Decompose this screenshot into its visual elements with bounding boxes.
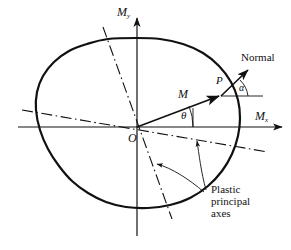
point-p-label: P (216, 75, 223, 86)
normal-label: Normal (241, 52, 275, 63)
y-axis-label: My (117, 6, 130, 20)
plastic-principal-axis-shallow (22, 110, 268, 152)
moment-vector-label: M (178, 88, 188, 100)
plastic-axes-leader-2 (157, 164, 204, 192)
x-axis-label: Mx (255, 110, 268, 124)
theta-angle-arc (189, 106, 193, 127)
plastic-axes-leader-1 (197, 141, 206, 190)
alpha-angle-label: α (239, 83, 244, 93)
figure-canvas: My Mx O M P θ α Normal Plastic principal… (0, 0, 291, 250)
plastic-label-line-3: axes (211, 207, 250, 219)
plastic-label-line-1: Plastic (211, 183, 250, 195)
theta-angle-label: θ (181, 110, 186, 121)
origin-label: O (128, 132, 137, 144)
plastic-label-line-2: principal (211, 195, 250, 207)
plastic-principal-axes-label: Plastic principal axes (211, 183, 250, 219)
